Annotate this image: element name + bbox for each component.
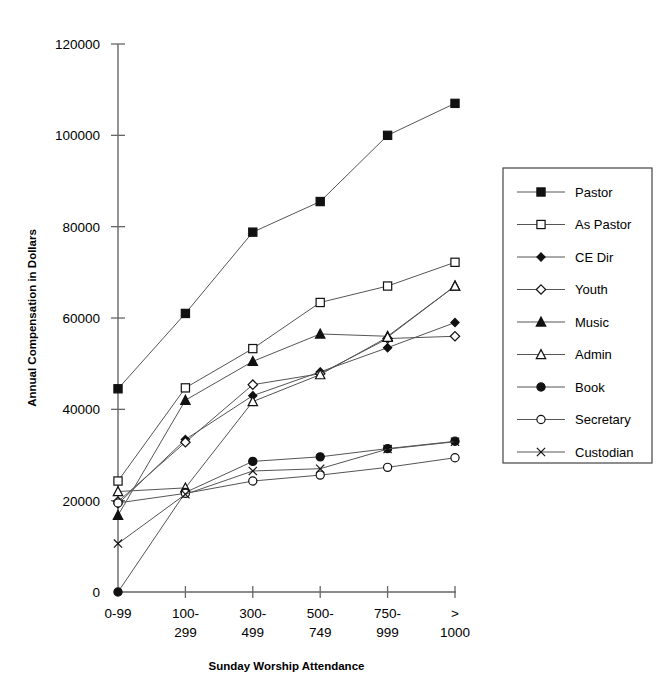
data-point-open-square bbox=[114, 477, 122, 485]
legend-label: Youth bbox=[575, 282, 608, 297]
x-tick-label: 750- bbox=[374, 606, 401, 621]
y-tick-label: 120000 bbox=[55, 37, 100, 52]
data-point-filled-square bbox=[181, 309, 189, 317]
x-tick-label: 300- bbox=[239, 606, 266, 621]
legend-label: Custodian bbox=[575, 445, 634, 460]
data-point-open-circle bbox=[537, 415, 545, 423]
legend-label: Music bbox=[575, 315, 609, 330]
data-point-filled-square bbox=[384, 131, 392, 139]
data-point-open-square bbox=[537, 220, 545, 228]
series-admin bbox=[113, 281, 459, 496]
series-as-pastor bbox=[114, 258, 459, 485]
y-tick-label: 60000 bbox=[62, 311, 100, 326]
legend-label: Pastor bbox=[575, 185, 613, 200]
line-chart: 020000400006000080000100000120000 0-9910… bbox=[0, 0, 668, 689]
data-point-filled-circle bbox=[316, 453, 324, 461]
data-point-filled-diamond bbox=[384, 344, 392, 352]
x-tick-label: 999 bbox=[376, 625, 399, 640]
x-tick-label: 499 bbox=[242, 625, 265, 640]
y-axis: 020000400006000080000100000120000 bbox=[55, 37, 125, 600]
legend: PastorAs PastorCE DirYouthMusicAdminBook… bbox=[503, 168, 652, 463]
data-point-open-circle bbox=[114, 499, 122, 507]
x-tick-label: 749 bbox=[309, 625, 332, 640]
chart-container: 020000400006000080000100000120000 0-9910… bbox=[0, 0, 668, 689]
data-point-filled-triangle bbox=[113, 510, 122, 519]
x-tick-label: 0-99 bbox=[104, 606, 131, 621]
x-tick-label: 299 bbox=[174, 625, 197, 640]
series-ce-dir bbox=[114, 318, 459, 507]
series-youth bbox=[113, 332, 459, 507]
series-secretary bbox=[114, 454, 459, 507]
x-tick-label: > bbox=[451, 606, 459, 621]
data-point-filled-square bbox=[249, 228, 257, 236]
legend-label: CE Dir bbox=[575, 250, 614, 265]
x-tick-label: 1000 bbox=[440, 625, 470, 640]
data-point-open-triangle bbox=[450, 281, 459, 290]
y-tick-label: 100000 bbox=[55, 128, 100, 143]
data-point-filled-square bbox=[537, 188, 545, 196]
y-tick-label: 0 bbox=[92, 585, 100, 600]
y-axis-title: Annual Compensation in Dollars bbox=[26, 229, 38, 407]
series-music bbox=[113, 281, 459, 519]
data-point-filled-square bbox=[114, 385, 122, 393]
data-point-filled-circle bbox=[537, 383, 545, 391]
data-point-filled-triangle bbox=[181, 395, 190, 404]
data-point-filled-triangle bbox=[248, 356, 257, 365]
data-point-open-circle bbox=[384, 463, 392, 471]
data-point-filled-circle bbox=[114, 588, 122, 596]
x-tick-label: 500- bbox=[307, 606, 334, 621]
data-point-filled-diamond bbox=[451, 318, 459, 326]
series-layer bbox=[113, 99, 459, 596]
series-pastor bbox=[114, 99, 459, 393]
data-point-open-diamond bbox=[450, 332, 459, 341]
data-point-open-circle bbox=[451, 454, 459, 462]
y-tick-label: 20000 bbox=[62, 494, 100, 509]
data-point-open-square bbox=[316, 298, 324, 306]
y-tick-label: 40000 bbox=[62, 402, 100, 417]
data-point-open-square bbox=[451, 258, 459, 266]
data-point-open-circle bbox=[249, 477, 257, 485]
data-point-filled-circle bbox=[249, 457, 257, 465]
legend-label: Secretary bbox=[575, 412, 631, 427]
x-axis: 0-99100-299300-499500-749750-999>1000 bbox=[104, 586, 470, 640]
legend-label: As Pastor bbox=[575, 217, 632, 232]
legend-label: Admin bbox=[575, 347, 612, 362]
y-tick-label: 80000 bbox=[62, 220, 100, 235]
data-point-open-square bbox=[181, 384, 189, 392]
data-point-open-square bbox=[384, 282, 392, 290]
series-book bbox=[114, 437, 459, 596]
series-custodian bbox=[114, 438, 459, 548]
legend-label: Book bbox=[575, 380, 605, 395]
data-point-open-square bbox=[249, 344, 257, 352]
data-point-filled-square bbox=[451, 99, 459, 107]
data-point-filled-triangle bbox=[316, 329, 325, 338]
data-point-filled-square bbox=[316, 197, 324, 205]
x-axis-title: Sunday Worship Attendance bbox=[209, 660, 365, 672]
x-tick-label: 100- bbox=[172, 606, 199, 621]
